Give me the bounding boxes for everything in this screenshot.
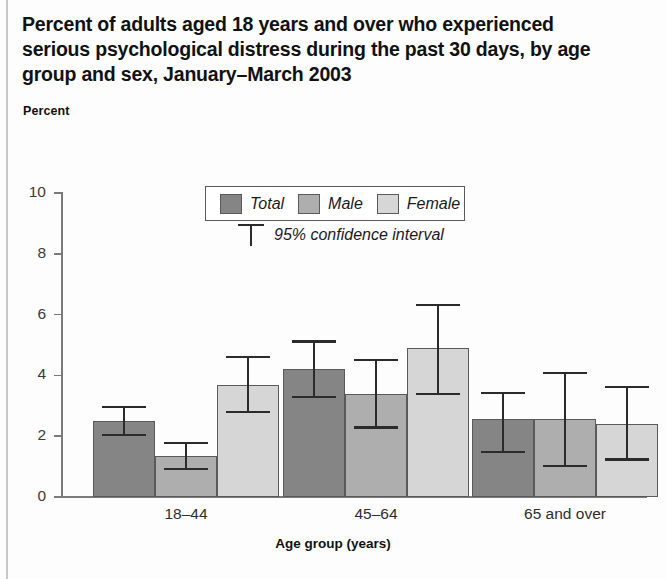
legend-label-total: Total (250, 195, 284, 213)
y-tick-mark (54, 314, 62, 316)
y-tick-label: 6 (0, 305, 46, 323)
error-bar-male-2 (534, 372, 596, 466)
legend-swatch-male (298, 194, 320, 214)
y-tick-label: 10 (0, 183, 46, 201)
x-group-label-0: 18–44 (106, 505, 266, 523)
legend-item-male: Male (298, 194, 363, 214)
chart-page: Percent of adults aged 18 years and over… (0, 0, 666, 579)
y-tick-label: 2 (0, 426, 46, 444)
error-bar-total-0 (93, 406, 155, 436)
error-bar-male-0 (155, 442, 217, 469)
legend-label-male: Male (328, 195, 363, 213)
y-tick-mark (54, 435, 62, 437)
y-tick-label: 4 (0, 365, 46, 383)
x-axis-title: Age group (years) (0, 536, 666, 551)
error-bar-female-2 (596, 386, 658, 460)
error-bar-total-1 (283, 340, 345, 398)
legend-swatch-female (377, 194, 399, 214)
x-group-label-1: 45–64 (296, 505, 456, 523)
chart-legend: TotalMaleFemale (205, 186, 465, 221)
y-axis-line (61, 192, 63, 498)
y-tick-label: 8 (0, 244, 46, 262)
confidence-interval-label: 95% confidence interval (274, 226, 444, 244)
error-bar-male-1 (345, 359, 407, 429)
error-bar-female-0 (217, 356, 279, 414)
error-bar-icon (238, 222, 264, 248)
legend-item-total: Total (220, 194, 284, 214)
error-bar-total-2 (472, 392, 534, 453)
legend-item-female: Female (377, 194, 460, 214)
legend-swatch-total (220, 194, 242, 214)
legend-label-female: Female (407, 195, 460, 213)
y-tick-mark (54, 496, 62, 498)
error-bar-female-1 (407, 304, 469, 395)
y-tick-mark (54, 375, 62, 377)
plot-area: 0246810 18–4445–6465 and over Age group … (0, 0, 666, 579)
y-tick-label: 0 (0, 487, 46, 505)
x-group-label-2: 65 and over (485, 505, 645, 523)
confidence-interval-legend: 95% confidence interval (238, 222, 444, 248)
y-tick-mark (54, 192, 62, 194)
y-tick-mark (54, 253, 62, 255)
